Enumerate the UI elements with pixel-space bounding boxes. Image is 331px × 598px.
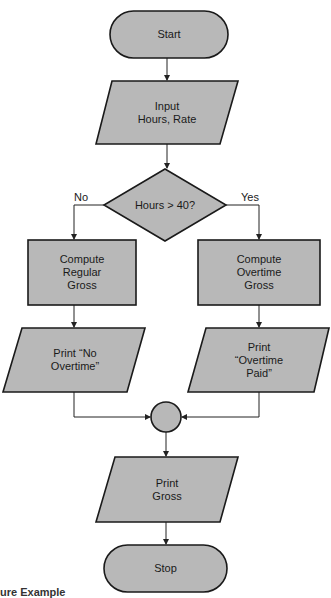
compute-overtime-label: Compute Overtime Gross (198, 253, 320, 292)
compute-regular-label: Compute Regular Gross (28, 253, 136, 292)
start-label: Start (110, 28, 228, 41)
merge-connector-circle (151, 402, 181, 432)
stop-label: Stop (104, 562, 227, 575)
figure-caption: ure Example (0, 586, 65, 598)
branch-yes-label: Yes (241, 191, 259, 203)
print-overtime-paid-label: Print “Overtime Paid” (198, 341, 320, 380)
input-label: Input Hours, Rate (100, 100, 234, 126)
print-gross-label: Print Gross (106, 477, 228, 503)
print-no-overtime-label: Print “No Overtime” (14, 347, 136, 373)
branch-no-label: No (74, 191, 88, 203)
decision-label: Hours > 40? (104, 199, 226, 212)
